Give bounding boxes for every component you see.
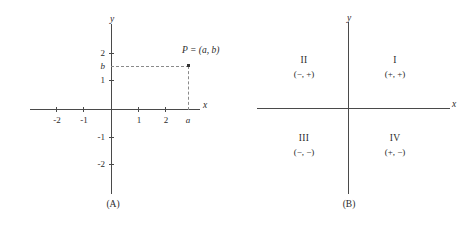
panel-a-plot-area: -2 -1 1 2 a 2 b 1 -1 -2 x y P = (a, b) (…	[0, 0, 229, 226]
panel-b: x y II (−, +) I (+, +) III (−, −) IV (+,…	[229, 0, 458, 226]
y-tick-pos2	[109, 53, 114, 54]
x-axis-line	[257, 108, 450, 109]
y-tick-label-neg2: -2	[98, 159, 106, 169]
x-axis-label: x	[203, 100, 207, 110]
y-tick-label-neg1: -1	[98, 132, 106, 142]
x-tick-label-pos2: 2	[164, 115, 169, 125]
quadrant-2-roman: II	[301, 55, 308, 65]
quadrant-4-roman: IV	[390, 133, 401, 143]
panel-b-caption: (B)	[343, 199, 356, 210]
y-tick-label-pos2: 2	[101, 48, 106, 58]
x-tick-pos2	[165, 107, 166, 112]
point-p-label: P = (a, b)	[182, 45, 219, 55]
quadrant-2-signs: (−, +)	[294, 69, 315, 79]
panel-a-caption: (A)	[106, 199, 119, 210]
x-tick-label-neg2: -2	[53, 115, 61, 125]
y-axis-label: y	[110, 14, 114, 24]
x-tick-pos1	[138, 107, 139, 112]
panel-a: -2 -1 1 2 a 2 b 1 -1 -2 x y P = (a, b) (…	[0, 0, 229, 226]
guide-line-to-y-axis	[111, 66, 189, 67]
panel-b-plot-area: x y II (−, +) I (+, +) III (−, −) IV (+,…	[229, 0, 458, 226]
y-tick-neg2	[109, 164, 114, 165]
x-tick-label-neg1: -1	[80, 115, 88, 125]
y-tick-neg1	[109, 137, 114, 138]
quadrant-4-signs: (+, −)	[385, 147, 406, 157]
y-axis-line	[348, 22, 349, 194]
y-tick-label-b: b	[101, 61, 106, 71]
quadrant-3-roman: III	[299, 133, 309, 143]
y-axis-label: y	[347, 13, 351, 23]
x-axis-label: x	[452, 99, 456, 109]
y-tick-label-pos1: 1	[101, 75, 106, 85]
quadrant-1-roman: I	[393, 55, 396, 65]
y-tick-pos1	[109, 80, 114, 81]
coordinate-plane-figure: -2 -1 1 2 a 2 b 1 -1 -2 x y P = (a, b) (…	[0, 0, 458, 226]
point-p-marker	[187, 64, 190, 67]
quadrant-3-signs: (−, −)	[294, 147, 315, 157]
x-tick-neg2	[56, 107, 57, 112]
x-tick-label-pos1: 1	[137, 115, 142, 125]
x-tick-label-a: a	[186, 115, 191, 125]
y-axis-line	[111, 24, 112, 194]
guide-line-to-x-axis	[188, 66, 189, 110]
quadrant-1-signs: (+, +)	[385, 69, 406, 79]
x-tick-neg1	[83, 107, 84, 112]
